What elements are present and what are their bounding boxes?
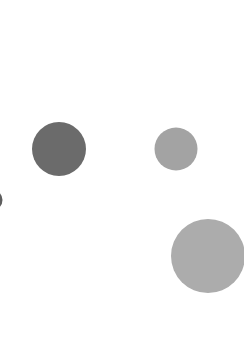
- large-circle: [171, 219, 244, 293]
- dark-circle: [32, 122, 86, 176]
- medium-circle: [155, 128, 198, 171]
- circles-canvas: [0, 0, 244, 339]
